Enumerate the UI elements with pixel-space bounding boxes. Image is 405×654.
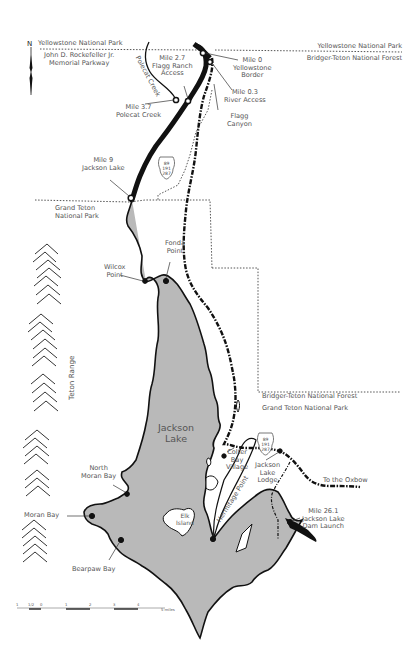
label-wilcox-point: Wilcox Point (104, 264, 125, 279)
label-mile-0-3: Mile 0.3 River Access (224, 89, 266, 104)
label-rockefeller-parkway: John D. Rockefeller Jr. Memorial Parkway (44, 52, 114, 67)
marker-wilcox-point (143, 279, 148, 284)
label-bridger-teton-se: Bridger-Teton National Forest (262, 393, 357, 401)
label-bridger-teton-ne: Bridger-Teton National Forest (307, 55, 402, 63)
label-north-moran-bay: North Moran Bay (81, 465, 116, 480)
marker-mile-9 (128, 195, 134, 201)
label-grand-teton-nw: Grand Teton National Park (55, 205, 99, 220)
label-yellowstone-nw: Yellowstone National Park (38, 40, 123, 48)
scale-tick: 1 (16, 601, 18, 609)
label-mile-9: Mile 9 Jackson Lake (82, 157, 125, 172)
yellowstone-boundary-west (40, 49, 200, 50)
park-boundaries (35, 49, 402, 392)
label-fonda-point: Fonda Point (165, 240, 185, 255)
marker-mile-3-7 (173, 97, 178, 102)
label-jackson-lake-lodge: Jackson Lake Lodge (255, 462, 280, 485)
label-flagg-canyon: Flagg Canyon (227, 113, 252, 128)
marker-bearpaw-bay (118, 537, 123, 542)
marker-mile-2-7 (185, 98, 190, 103)
label-mile-26-1: Mile 26.1 Jackson Lake Dam Launch (302, 508, 345, 531)
colter-bay-islands (206, 476, 218, 490)
label-elk-island: Elk Island (176, 513, 194, 526)
marker-fonda-point (163, 278, 168, 283)
scale-tick: 4 (137, 601, 139, 609)
marker-north-moran-bay (125, 492, 130, 497)
map-canvas (0, 0, 405, 654)
label-yellowstone-ne: Yellowstone National Park (317, 43, 402, 51)
marker-hermitage-point (210, 536, 215, 541)
lake-label: Jackson Lake (158, 423, 194, 444)
label-grand-teton-se: Grand Teton National Park (262, 405, 348, 413)
highway-shield-89-north: 89 191 287 (158, 158, 175, 180)
scale-tick: 2 (89, 601, 91, 609)
label-bearpaw-bay: Bearpaw Bay (72, 566, 116, 574)
label-mile-2-7: Mile 2.7 Flagg Ranch Access (152, 55, 193, 78)
label-colter-bay: Colter Bay Village (226, 449, 248, 472)
forest-boundary-east (212, 268, 400, 392)
label-to-oxbow: To the Oxbow (323, 477, 368, 485)
label-teton-range: Teton Range (68, 356, 76, 400)
scale-tick: 1 (65, 601, 67, 609)
label-mile-0: Mile 0 Yellowstone Border (233, 57, 272, 80)
label-mile-3-7: Mile 3.7 Polecat Creek (116, 104, 161, 119)
marker-mile-26-1 (287, 519, 292, 524)
north-label: N (27, 41, 32, 49)
scale-tick: 3 (113, 601, 115, 609)
marker-mile-0 (200, 50, 205, 55)
marker-moran-bay (89, 513, 94, 518)
north-arrow-icon (30, 47, 33, 95)
highway-shield-89-south: 89 191 287 (257, 434, 274, 456)
scale-tick: 0 (40, 601, 42, 609)
scale-tick: 5 miles (161, 606, 175, 614)
label-moran-bay: Moran Bay (24, 512, 59, 520)
scale-tick: 1/2 (28, 601, 34, 609)
marker-mile-0-3 (208, 60, 213, 65)
